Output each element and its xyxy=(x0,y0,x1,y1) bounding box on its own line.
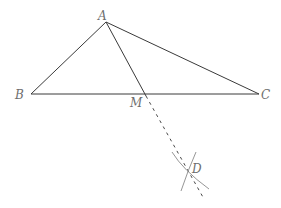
construction-arc-1 xyxy=(172,152,209,189)
segment-ac xyxy=(106,22,259,94)
median-am xyxy=(106,22,146,96)
label-a: A xyxy=(97,9,107,23)
label-b: B xyxy=(14,88,24,102)
label-d: D xyxy=(191,162,202,176)
segment-ab xyxy=(31,22,106,94)
label-c: C xyxy=(261,88,270,102)
triangle-diagram: A B C M D xyxy=(0,0,281,208)
label-m: M xyxy=(129,96,143,110)
extension-md-dashed xyxy=(146,96,204,199)
